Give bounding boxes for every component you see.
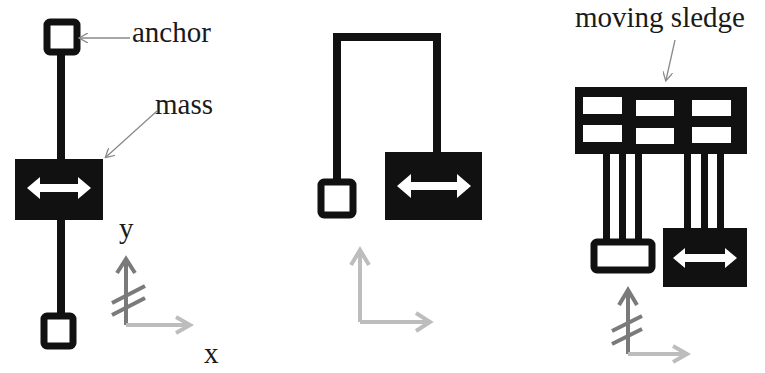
axes-icon — [112, 259, 190, 333]
anchor-rect — [594, 242, 652, 270]
panel-3-moving-sledge — [575, 40, 747, 362]
beam-set-left — [603, 150, 642, 242]
anchor-label: anchor — [132, 18, 211, 47]
sledge-leader-line — [666, 40, 675, 80]
mass-leader-line — [106, 111, 157, 157]
anchor-square — [321, 182, 353, 215]
x-axis-label: x — [204, 339, 219, 368]
y-axis-label: y — [119, 214, 134, 243]
diagram-svg — [0, 0, 765, 373]
panel-1-single-anchor — [15, 22, 190, 346]
anchor-bottom-square — [44, 316, 73, 346]
anchor-top-square — [47, 22, 77, 52]
moving-sledge-label: moving sledge — [575, 3, 745, 32]
diagram-canvas: anchor mass y x moving sledge — [0, 0, 765, 373]
beam-set-right — [684, 150, 724, 230]
axes-icon — [351, 250, 430, 331]
panel-2-folded-beam — [321, 37, 482, 331]
mass-label: mass — [155, 90, 213, 119]
axes-icon — [612, 290, 687, 362]
